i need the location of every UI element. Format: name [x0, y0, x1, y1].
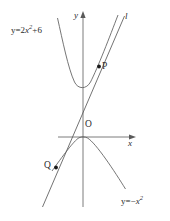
- point-p-marker: [97, 65, 101, 69]
- line-l-label: l: [125, 12, 128, 21]
- x-axis: [58, 134, 136, 139]
- equation-downward-prefix: y=−: [121, 196, 136, 206]
- equation-downward-exponent: 2: [140, 194, 143, 201]
- equation-upward-prefix: y=2: [11, 25, 25, 35]
- math-figure: y=2x2+6 y=−x2 y x l P Q O: [0, 0, 170, 221]
- tangent-line-l: [43, 16, 125, 207]
- point-q-marker: [54, 166, 58, 170]
- equation-label-upward-parabola: y=2x2+6: [11, 26, 42, 35]
- y-axis-arrowhead: [80, 11, 85, 18]
- point-q-label: Q: [44, 161, 51, 171]
- equation-upward-suffix: +6: [32, 25, 42, 35]
- curve-downward-parabola: [52, 137, 126, 189]
- y-axis-label: y: [74, 11, 78, 20]
- origin-label: O: [85, 120, 92, 130]
- point-p-label: P: [102, 62, 107, 72]
- x-axis-label: x: [128, 139, 132, 148]
- equation-label-downward-parabola: y=−x2: [121, 197, 143, 206]
